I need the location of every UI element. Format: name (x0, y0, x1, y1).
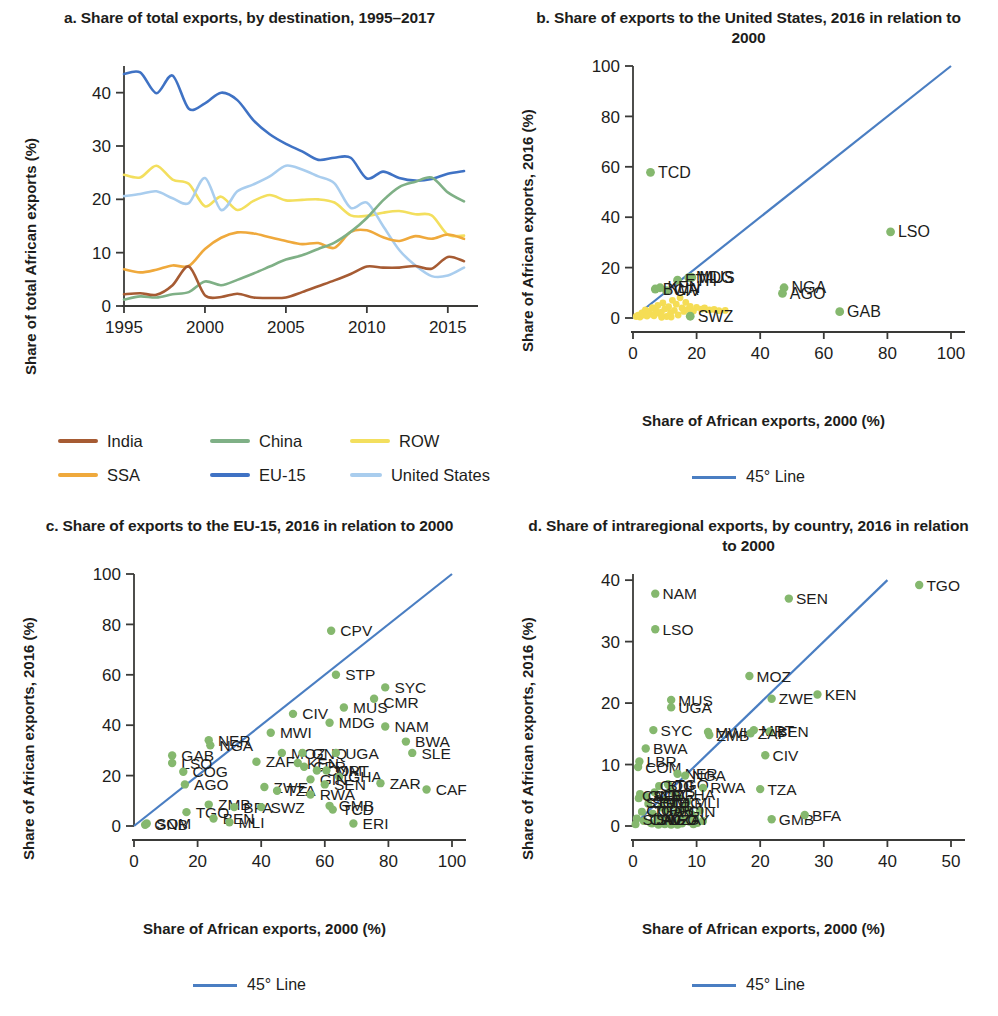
scatter-point (658, 314, 665, 321)
scatter-point-syc (381, 683, 389, 691)
scatter-point-bwa (642, 744, 650, 752)
legend-swatch-45-line-c (193, 984, 237, 987)
scatter-point-zaf (746, 729, 754, 737)
panel-b-legend[interactable]: 45° Line (499, 468, 998, 486)
axis-tick-label: 80 (102, 616, 121, 635)
figure-four-panel-exports: a. Share of total exports, by destinatio… (0, 0, 998, 1016)
scatter-point-zar (376, 779, 384, 787)
legend-item-eu15[interactable]: EU-15 (210, 466, 350, 485)
scatter-point-com (634, 763, 642, 771)
scatter-label-gab: GAB (847, 303, 881, 320)
scatter-point-tcd (329, 805, 337, 813)
axis-tick-label: 10 (687, 852, 706, 871)
scatter-point-bfa (801, 811, 809, 819)
panel-d-legend[interactable]: 45° Line (499, 976, 998, 994)
panel-c-legend[interactable]: 45° Line (0, 976, 499, 994)
scatter-point-ago (778, 289, 787, 298)
scatter-label-zaf: ZAF (266, 753, 295, 770)
axis-tick-label: 0 (611, 309, 620, 328)
scatter-point-stp (332, 671, 340, 679)
scatter-point-gnq (298, 749, 306, 757)
scatter-point-gnb (141, 821, 149, 829)
legend-label-45-line-c: 45° Line (247, 976, 306, 994)
scatter-point-gab (835, 307, 844, 316)
axis-tick-label: 30 (814, 852, 833, 871)
axis-tick-label: 80 (379, 852, 398, 871)
axis-tick-label: 2015 (429, 318, 467, 337)
panel-b-plot: 020406080100020406080100TCDLSOMDGMUSETHK… (579, 58, 969, 373)
scatter-point-zaf (252, 758, 260, 766)
legend-label-45-line-d: 45° Line (746, 976, 805, 994)
axis-tick-label: 20 (601, 259, 620, 278)
scatter-point-syc (649, 726, 657, 734)
scatter-point-swz (257, 803, 265, 811)
scatter-point-mus (667, 696, 675, 704)
scatter-point-lso (886, 227, 895, 236)
legend-label-china: China (259, 432, 302, 451)
axis-tick-label: 60 (102, 666, 121, 685)
scatter-label-moz: MOZ (757, 668, 791, 685)
scatter-label-zmb: ZMB (717, 727, 750, 744)
scatter-label-uga: UGA (678, 699, 712, 716)
axis-tick-label: 80 (601, 108, 620, 127)
scatter-label-swz: SWZ (698, 308, 734, 325)
scatter-point-cpr (300, 763, 308, 771)
scatter-point-eri (349, 819, 357, 827)
legend-item-india[interactable]: India (58, 432, 210, 451)
axis-tick-label: 100 (937, 344, 965, 363)
scatter-point (633, 815, 641, 823)
scatter-point-tgo (915, 581, 923, 589)
scatter-point-uga (667, 703, 675, 711)
scatter-point-ken (813, 690, 821, 698)
panel-a-plot: 01020304019952000200520102015 (78, 60, 478, 360)
legend-item-united-states[interactable]: United States (350, 466, 490, 485)
axis-tick-label: 1995 (105, 318, 143, 337)
axis-tick-label: 40 (878, 852, 897, 871)
scatter-point-cpv (327, 627, 335, 635)
panel-c-title: c. Share of exports to the EU-15, 2016 i… (0, 516, 499, 536)
scatter-point-ago (181, 780, 189, 788)
scatter-label-zaf: ZAF (758, 725, 787, 742)
axis-tick-label: 2000 (186, 318, 224, 337)
axis-tick-label: 0 (628, 852, 637, 871)
scatter-point-nam (651, 589, 659, 597)
scatter-point-tza (273, 787, 281, 795)
scatter-label-tcd: TCD (658, 164, 691, 181)
legend-item-china[interactable]: China (210, 432, 350, 451)
legend-item-ssa[interactable]: SSA (58, 466, 210, 485)
scatter-label-zwe: ZWE (779, 690, 813, 707)
legend-label-row: ROW (399, 432, 439, 451)
scatter-point-moz (745, 672, 753, 680)
axis-tick-label: 30 (601, 633, 620, 652)
scatter-label-syc: SYC (661, 722, 693, 739)
axis-tick-label: 0 (112, 817, 121, 836)
scatter-point-zwe (767, 695, 775, 703)
scatter-label-swz: SWZ (270, 799, 304, 816)
scatter-label-ago: AGO (790, 285, 826, 302)
scatter-point-nam (381, 722, 389, 730)
axis-tick-label: 40 (252, 852, 271, 871)
scatter-label-cpv: CPV (340, 622, 373, 639)
panel-c-ylabel: Share of African exports, 2016 (%) (20, 617, 37, 860)
scatter-point (659, 299, 666, 306)
axis-tick-label: 0 (628, 344, 637, 363)
legend-item-row[interactable]: ROW (350, 432, 490, 451)
panel-b-title: b. Share of exports to the United States… (499, 8, 998, 48)
legend-label-united-states: United States (391, 466, 490, 485)
scatter-point-mus (340, 703, 348, 711)
scatter-label-ago: AGO (194, 776, 228, 793)
axis-tick-label: 20 (751, 852, 770, 871)
axis-tick-label: 0 (102, 297, 111, 316)
axis-tick-label: 10 (92, 244, 111, 263)
scatter-point-zmb (705, 731, 713, 739)
scatter-label-bwa: BWA (663, 281, 699, 298)
scatter-point-mwi (267, 729, 275, 737)
axis-tick-label: 2005 (267, 318, 305, 337)
scatter-point-swz (686, 312, 695, 321)
scatter-label-ken: KEN (825, 686, 857, 703)
scatter-point-ben (209, 814, 217, 822)
scatter-label-tgo: TGO (926, 577, 960, 594)
scatter-point-civ (289, 710, 297, 718)
scatter-point-sen (785, 594, 793, 602)
scatter-point-mli (225, 818, 233, 826)
